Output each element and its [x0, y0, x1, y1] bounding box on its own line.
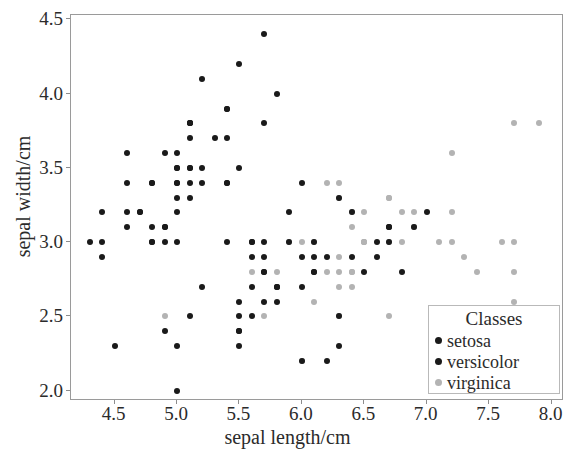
- legend-marker-icon: [435, 358, 442, 365]
- data-point: [349, 284, 355, 290]
- data-point: [299, 239, 305, 245]
- y-tick-label: 3.5: [39, 157, 63, 176]
- y-axis-label: sepal width/cm: [12, 82, 35, 312]
- data-point: [261, 299, 267, 305]
- y-tick-label: 3.0: [39, 232, 63, 251]
- data-point: [299, 284, 305, 290]
- data-point: [87, 239, 93, 245]
- data-point: [336, 284, 342, 290]
- data-point: [336, 343, 342, 349]
- data-point: [374, 239, 380, 245]
- data-point: [411, 209, 417, 215]
- data-point: [274, 269, 280, 275]
- data-point: [361, 269, 367, 275]
- data-point: [249, 254, 255, 260]
- data-point: [99, 239, 105, 245]
- data-point: [511, 239, 517, 245]
- data-point: [174, 195, 180, 201]
- data-point: [249, 284, 255, 290]
- x-tick-label: 7.0: [414, 404, 438, 423]
- data-point: [261, 120, 267, 126]
- data-point: [449, 239, 455, 245]
- data-point: [299, 254, 305, 260]
- y-tick-mark: [66, 315, 70, 316]
- data-point: [112, 343, 118, 349]
- data-point: [274, 91, 280, 97]
- y-tick-mark: [66, 93, 70, 94]
- x-tick-label: 8.0: [539, 404, 563, 423]
- data-point: [399, 209, 405, 215]
- data-point: [261, 31, 267, 37]
- data-point: [124, 180, 130, 186]
- data-point: [236, 165, 242, 171]
- data-point: [436, 239, 442, 245]
- data-point: [199, 165, 205, 171]
- data-point: [162, 239, 168, 245]
- data-point: [324, 269, 330, 275]
- legend-entry-virginica: virginica: [429, 372, 559, 393]
- x-tick-label: 4.5: [102, 404, 126, 423]
- data-point: [311, 254, 317, 260]
- y-tick-label: 4.5: [39, 9, 63, 28]
- data-point: [474, 269, 480, 275]
- y-tick-mark: [66, 390, 70, 391]
- data-point: [174, 343, 180, 349]
- data-point: [99, 209, 105, 215]
- data-point: [286, 209, 292, 215]
- data-point: [424, 209, 430, 215]
- data-point: [187, 313, 193, 319]
- data-point: [324, 180, 330, 186]
- data-point: [324, 254, 330, 260]
- data-point: [124, 150, 130, 156]
- data-point: [162, 224, 168, 230]
- data-point: [324, 358, 330, 364]
- data-point: [411, 224, 417, 230]
- legend-entries: setosaversicolorvirginica: [429, 330, 559, 393]
- data-point: [162, 313, 168, 319]
- data-point: [124, 209, 130, 215]
- data-point: [137, 209, 143, 215]
- data-point: [311, 269, 317, 275]
- data-point: [149, 180, 155, 186]
- data-point: [174, 165, 180, 171]
- data-point: [224, 135, 230, 141]
- data-point: [349, 209, 355, 215]
- data-point: [374, 254, 380, 260]
- data-point: [187, 135, 193, 141]
- x-axis-label: sepal length/cm: [0, 426, 575, 449]
- data-point: [299, 358, 305, 364]
- legend-entry-versicolor: versicolor: [429, 351, 559, 372]
- data-point: [187, 195, 193, 201]
- data-point: [349, 254, 355, 260]
- data-point: [224, 239, 230, 245]
- data-point: [386, 313, 392, 319]
- data-point: [224, 106, 230, 112]
- data-point: [249, 239, 255, 245]
- data-point: [224, 180, 230, 186]
- data-point: [336, 254, 342, 260]
- data-point: [199, 180, 205, 186]
- data-point: [249, 313, 255, 319]
- data-point: [361, 239, 367, 245]
- y-tick-mark: [66, 167, 70, 168]
- data-point: [511, 299, 517, 305]
- y-tick-label: 2.0: [39, 380, 63, 399]
- data-point: [386, 224, 392, 230]
- data-point: [399, 239, 405, 245]
- data-point: [449, 150, 455, 156]
- x-tick-label: 5.0: [164, 404, 188, 423]
- data-point: [349, 224, 355, 230]
- data-point: [336, 269, 342, 275]
- data-point: [336, 313, 342, 319]
- data-point: [386, 239, 392, 245]
- data-point: [299, 180, 305, 186]
- data-point: [336, 195, 342, 201]
- data-point: [187, 165, 193, 171]
- data-point: [236, 299, 242, 305]
- data-point: [261, 239, 267, 245]
- legend-entry-label: versicolor: [447, 353, 519, 371]
- data-point: [236, 313, 242, 319]
- x-tick-label: 5.5: [227, 404, 251, 423]
- data-point: [236, 343, 242, 349]
- legend-entry-label: setosa: [447, 332, 491, 350]
